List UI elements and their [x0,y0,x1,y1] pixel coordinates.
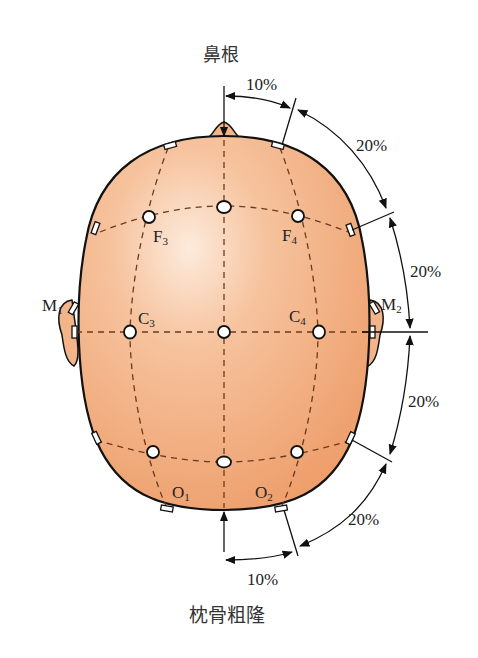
electrode-label-o2: O2 [255,484,273,503]
inion-label: 枕骨粗隆 [189,600,265,627]
measure-top-10: 10% [246,75,277,95]
mastoid-label-m1: M1 [42,297,63,316]
measure-bottom-10: 10% [247,570,278,590]
electrode-label-c4: C4 [289,308,306,327]
measure-right-20-c: 20% [408,392,439,412]
electrode-label-f3: F3 [153,228,168,247]
mastoid-label-m2: M2 [381,296,402,315]
measure-right-20-a: 20% [356,136,387,156]
electrode-label-c3: C3 [138,310,155,329]
measure-right-20-d: 20% [348,510,379,530]
eeg-10-20-diagram [0,0,478,658]
nasion-label: 鼻根 [203,40,239,66]
measure-right-20-b: 20% [410,262,441,282]
electrode-label-f4: F4 [282,227,297,246]
electrode-label-o1: O1 [172,484,190,503]
